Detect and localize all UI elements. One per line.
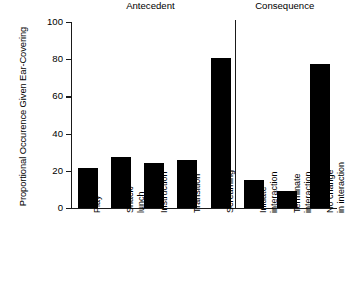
x-tick-label-line: interaction <box>269 171 280 213</box>
x-tick-label: Initiateinteraction <box>258 171 279 213</box>
x-tick-label: Terminateinteraction <box>292 171 313 213</box>
x-tick-label: Screaming <box>225 170 236 213</box>
x-tick-label-line: Terminate <box>292 171 303 213</box>
x-tick-label-line: Play <box>92 195 103 213</box>
y-axis-title: Proportional Occurence Given Ear-Coverin… <box>14 9 32 224</box>
x-tick-label-line: Initiate <box>258 171 269 213</box>
x-tick-label-line: Screaming <box>225 170 236 213</box>
group-label-consequence: Consequence <box>255 1 314 11</box>
x-tick-label-line: lunch <box>136 185 147 213</box>
x-tick-label: No changein interaction <box>325 162 346 213</box>
y-tick-mark <box>66 171 71 172</box>
x-tick-label: Snack/lunch <box>125 185 146 213</box>
y-tick-mark <box>66 134 71 135</box>
y-tick-mark <box>66 208 71 209</box>
x-tick-label: Play <box>92 195 103 213</box>
y-tick-label: 80 <box>52 54 63 64</box>
y-tick-mark <box>66 22 71 23</box>
x-tick-label-line: interaction <box>302 171 313 213</box>
y-tick-label: 40 <box>52 129 63 139</box>
x-tick-label-line: No change <box>325 162 336 213</box>
x-tick-label-line: Snack/ <box>125 185 136 213</box>
x-tick-label: Instruction <box>159 171 170 213</box>
y-tick-label: 60 <box>52 92 63 102</box>
y-tick-label: 20 <box>52 166 63 176</box>
x-tick-label-line: in interaction <box>335 162 346 213</box>
y-tick-mark <box>66 59 71 60</box>
y-tick-mark <box>66 96 71 97</box>
x-tick-label-line: Transition <box>192 174 203 213</box>
y-tick-label: 0 <box>58 203 63 213</box>
x-tick-label: Transition <box>192 174 203 213</box>
group-label-antecedent: Antecedent <box>126 1 175 11</box>
x-tick-label-line: Instruction <box>159 171 170 213</box>
bar-chart-figure: Proportional Occurence Given Ear-Coverin… <box>0 0 357 290</box>
y-tick-label: 100 <box>47 17 63 27</box>
